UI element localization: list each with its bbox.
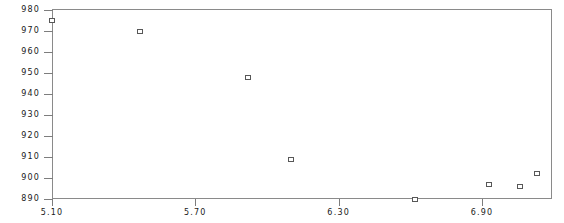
x-axis-tick-label: 6.90 (452, 208, 512, 217)
x-axis-tick (52, 199, 53, 206)
y-axis-tick-label: 910 (0, 153, 40, 161)
data-point (288, 157, 294, 162)
y-axis-tick (44, 10, 53, 11)
x-axis-tick-label: 5.10 (22, 208, 82, 217)
plot-area (52, 9, 552, 199)
x-axis-tick (339, 199, 340, 206)
y-axis-tick (44, 157, 53, 158)
y-axis-tick-label: 890 (0, 195, 40, 203)
y-axis-tick-label: 970 (0, 27, 40, 35)
data-point (245, 75, 251, 80)
y-axis-tick (44, 115, 53, 116)
data-point (49, 18, 55, 23)
data-point (534, 171, 540, 176)
data-point (486, 182, 492, 187)
y-axis-tick (44, 31, 53, 32)
y-axis-tick-label: 930 (0, 111, 40, 119)
y-axis-tick-label: 920 (0, 132, 40, 140)
y-axis-tick (44, 94, 53, 95)
data-point (412, 197, 418, 202)
data-point (137, 29, 143, 34)
y-axis-tick (44, 136, 53, 137)
y-axis-tick (44, 52, 53, 53)
y-axis-tick-label: 900 (0, 174, 40, 182)
scatter-chart: 890900910920930940950960970980 5.105.706… (0, 0, 564, 223)
y-axis-tick (44, 178, 53, 179)
y-axis-tick-label: 940 (0, 90, 40, 98)
y-axis-tick-label: 950 (0, 69, 40, 77)
y-axis-tick-label: 960 (0, 48, 40, 56)
data-point (517, 184, 523, 189)
x-axis-tick (482, 199, 483, 206)
x-axis-tick (195, 199, 196, 206)
y-axis-tick (44, 73, 53, 74)
x-axis-tick-label: 5.70 (165, 208, 225, 217)
y-axis-tick-label: 980 (0, 6, 40, 14)
x-axis-tick-label: 6.30 (309, 208, 369, 217)
